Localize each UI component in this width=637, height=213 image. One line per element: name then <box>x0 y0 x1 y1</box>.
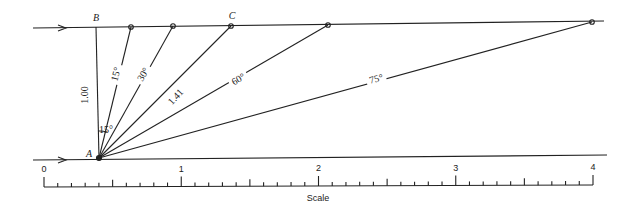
geometry-diagram: 1.0015°30°1.4160°75°15°ABC01234Scale <box>0 0 637 213</box>
segment-AB <box>96 27 99 158</box>
point-A-dot <box>97 156 102 161</box>
point-label-C: C <box>229 10 236 21</box>
ray-45 <box>99 26 231 158</box>
point-label-B: B <box>93 12 99 23</box>
scale-label-0: 0 <box>41 164 46 174</box>
ray-15 <box>99 27 131 158</box>
scale-title: Scale <box>307 193 330 203</box>
point-label-A: A <box>85 148 93 159</box>
ray-30 <box>99 26 173 158</box>
bottom-line <box>33 155 607 160</box>
ray-60 <box>99 25 328 158</box>
label-AB-length: 1.00 <box>79 86 90 104</box>
scale-label-3: 3 <box>453 163 458 173</box>
angle-marker-label: 15° <box>99 124 113 135</box>
scale-label-2: 2 <box>316 163 321 173</box>
top-line <box>33 21 604 28</box>
scale-label-1: 1 <box>179 164 184 174</box>
scale-label-4: 4 <box>590 162 595 172</box>
